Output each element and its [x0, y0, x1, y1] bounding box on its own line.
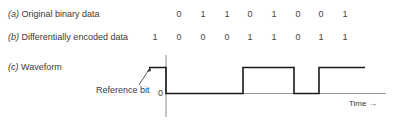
time-label: Time →	[349, 99, 377, 109]
zero-level-label: 0	[158, 88, 163, 98]
reference-bit-label: Reference bit	[96, 85, 150, 95]
waveform-plot	[0, 0, 399, 125]
waveform-trace	[149, 68, 365, 94]
